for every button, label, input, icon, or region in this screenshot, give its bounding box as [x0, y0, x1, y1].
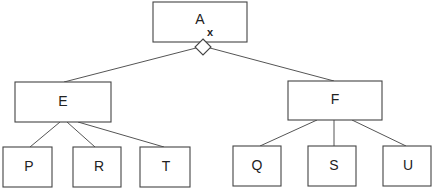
node-f-label: F	[331, 91, 340, 107]
node-q[interactable]: Q	[233, 146, 281, 186]
node-t[interactable]: T	[140, 147, 190, 187]
edge-e-p	[30, 122, 60, 147]
node-r-label: R	[94, 158, 104, 174]
node-s-label: S	[329, 157, 338, 173]
edge-a-e	[64, 48, 196, 82]
node-p[interactable]: P	[3, 147, 52, 187]
node-a-annotation: x	[207, 26, 214, 38]
node-q-label: Q	[252, 157, 263, 173]
edge-f-u	[352, 120, 406, 146]
node-a[interactable]: A x	[153, 2, 247, 42]
node-f[interactable]: F	[288, 81, 382, 120]
node-p-label: P	[24, 158, 33, 174]
node-e[interactable]: E	[15, 82, 111, 122]
node-s[interactable]: S	[308, 146, 356, 186]
edge-a-f	[210, 48, 334, 81]
tree-diagram: A x E F P R T Q S U	[0, 0, 435, 191]
node-u[interactable]: U	[383, 146, 431, 186]
node-e-label: E	[58, 93, 67, 109]
node-u-label: U	[403, 157, 413, 173]
node-r[interactable]: R	[73, 147, 121, 187]
node-t-label: T	[162, 158, 171, 174]
node-a-label: A	[195, 11, 205, 27]
edge-f-q	[260, 120, 317, 146]
